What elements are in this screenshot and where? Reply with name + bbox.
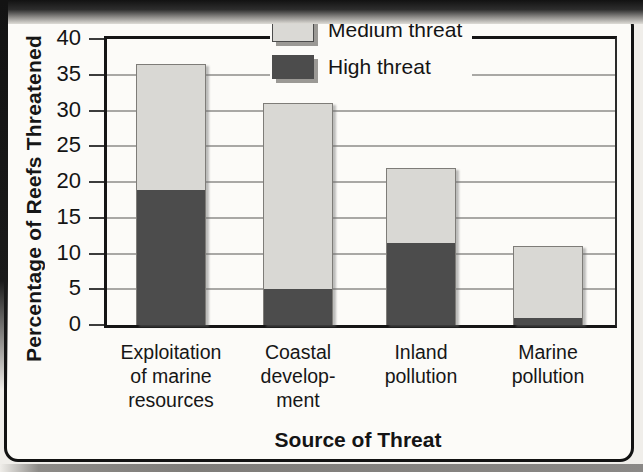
bar-segment-high-threat <box>137 190 205 325</box>
bar-segment-medium-threat <box>514 247 582 318</box>
bar-segment-high-threat <box>264 289 332 325</box>
bar-exploitation-of marine-resources <box>136 64 206 325</box>
bar-segment-high-threat <box>387 243 455 325</box>
y-tick-25 <box>89 145 104 147</box>
legend: Medium threatHigh threat <box>270 16 472 81</box>
legend-label-high-threat: High threat <box>328 55 431 79</box>
bar-segment-medium-threat <box>137 65 205 190</box>
scan-bottom-shadow-band <box>0 464 643 472</box>
bar-marine-pollution <box>513 246 583 325</box>
y-tick-5 <box>89 288 104 290</box>
bar-coastal-develop--ment <box>263 103 333 325</box>
bar-segment-high-threat <box>514 318 582 325</box>
legend-swatch-high-threat <box>272 55 314 79</box>
x-axis-title: Source of Threat <box>104 428 612 452</box>
bar-segment-medium-threat <box>264 104 332 289</box>
x-category-label-line: ment <box>223 388 373 412</box>
scan-left-shadow-band <box>0 0 8 390</box>
scan-top-shadow-band <box>0 0 643 24</box>
bar-segment-medium-threat <box>387 169 455 244</box>
y-axis-title: Percentage of Reefs Threatened <box>16 24 52 374</box>
x-category-label-line: Marine <box>473 340 623 364</box>
y-tick-40 <box>89 38 104 40</box>
y-tick-30 <box>89 110 104 112</box>
scanned-figure: Percentage of Reefs Threatened 051015202… <box>0 0 643 472</box>
y-tick-35 <box>89 74 104 76</box>
y-tick-10 <box>89 253 104 255</box>
bar-inland-pollution <box>386 168 456 325</box>
x-category-label-4: Marinepollution <box>473 340 623 388</box>
legend-item-high-threat: High threat <box>270 53 472 81</box>
y-tick-0 <box>89 324 104 326</box>
y-tick-20 <box>89 181 104 183</box>
y-tick-15 <box>89 217 104 219</box>
x-category-label-line: pollution <box>473 364 623 388</box>
